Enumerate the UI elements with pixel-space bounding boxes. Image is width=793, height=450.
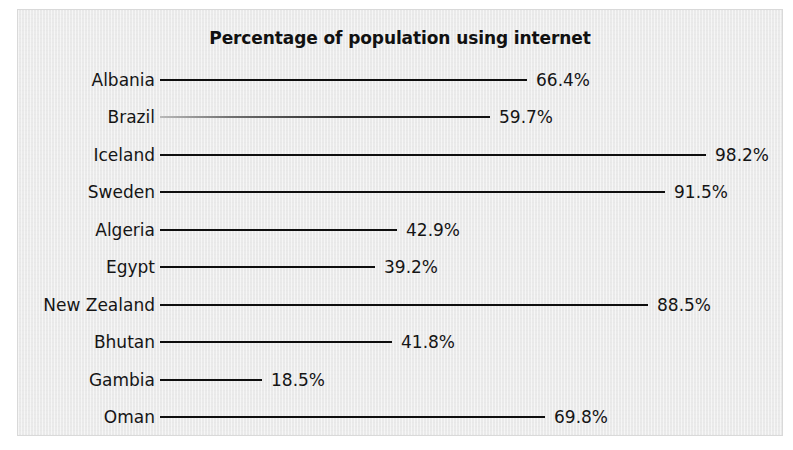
chart-row: Sweden91.5% [18, 179, 782, 205]
chart-row: Iceland98.2% [18, 142, 782, 168]
chart-row-label: Egypt [18, 254, 155, 280]
chart-row-bar [160, 341, 392, 343]
chart-row: Bhutan41.8% [18, 329, 782, 355]
chart-row-label: Algeria [18, 217, 155, 243]
chart-row: Brazil59.7% [18, 104, 782, 130]
chart-row-bar [160, 191, 665, 193]
chart-row: Egypt39.2% [18, 254, 782, 280]
chart-row-value: 41.8% [401, 329, 455, 355]
chart-row-bar [160, 229, 397, 231]
chart-plot-area: Albania66.4%Brazil59.7%Iceland98.2%Swede… [18, 10, 782, 435]
chart-row: New Zealand88.5% [18, 292, 782, 318]
chart-row-bar [160, 116, 490, 118]
chart-row-label: Brazil [18, 104, 155, 130]
chart-row-label: Albania [18, 67, 155, 93]
chart-row-bar [160, 304, 648, 306]
chart-row: Albania66.4% [18, 67, 782, 93]
chart-row-bar [160, 266, 375, 268]
chart-row-value: 42.9% [406, 217, 460, 243]
chart-row-value: 39.2% [384, 254, 438, 280]
chart-row-value: 91.5% [674, 179, 728, 205]
chart-row-value: 59.7% [499, 104, 553, 130]
chart-row-value: 69.8% [554, 404, 608, 430]
chart-row-label: Oman [18, 404, 155, 430]
page-root: Percentage of population using internet … [0, 0, 793, 450]
chart-row-label: Bhutan [18, 329, 155, 355]
chart-row-bar [160, 416, 545, 418]
chart-row-value: 98.2% [715, 142, 769, 168]
chart-row: Algeria42.9% [18, 217, 782, 243]
chart-row-value: 88.5% [657, 292, 711, 318]
chart-row-bar [160, 79, 527, 81]
chart-row-label: Sweden [18, 179, 155, 205]
chart-row: Gambia18.5% [18, 367, 782, 393]
chart-row-label: New Zealand [18, 292, 155, 318]
chart-row-value: 18.5% [271, 367, 325, 393]
chart-row-value: 66.4% [536, 67, 590, 93]
chart-panel: Percentage of population using internet … [18, 10, 782, 435]
chart-row-bar [160, 379, 262, 381]
chart-row-bar [160, 154, 706, 156]
chart-row: Oman69.8% [18, 404, 782, 430]
chart-row-label: Gambia [18, 367, 155, 393]
chart-row-label: Iceland [18, 142, 155, 168]
